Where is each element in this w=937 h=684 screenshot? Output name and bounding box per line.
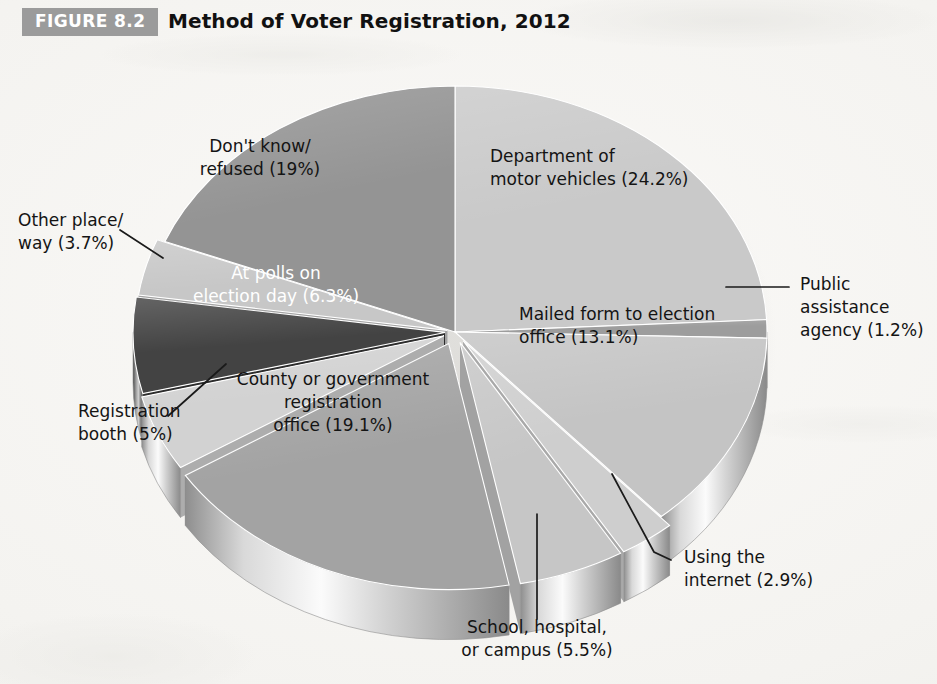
figure-number-badge: FIGURE 8.2 — [22, 8, 158, 36]
pie-slice-sheen — [455, 86, 767, 332]
slice-label-internet: Using theinternet (2.9%) — [684, 547, 813, 590]
figure-title: Method of Voter Registration, 2012 — [168, 9, 571, 34]
pie-chart-svg: Department ofmotor vehicles (24.2%)Publi… — [0, 44, 937, 684]
slice-label-other-place-way: Other place/way (3.7%) — [18, 210, 123, 253]
slice-label-public-assistance: Publicassistanceagency (1.2%) — [800, 274, 924, 340]
slice-label-school-hospital-campus: School, hospital,or campus (5.5%) — [461, 617, 612, 660]
pie-chart-container: Department ofmotor vehicles (24.2%)Publi… — [0, 44, 937, 684]
